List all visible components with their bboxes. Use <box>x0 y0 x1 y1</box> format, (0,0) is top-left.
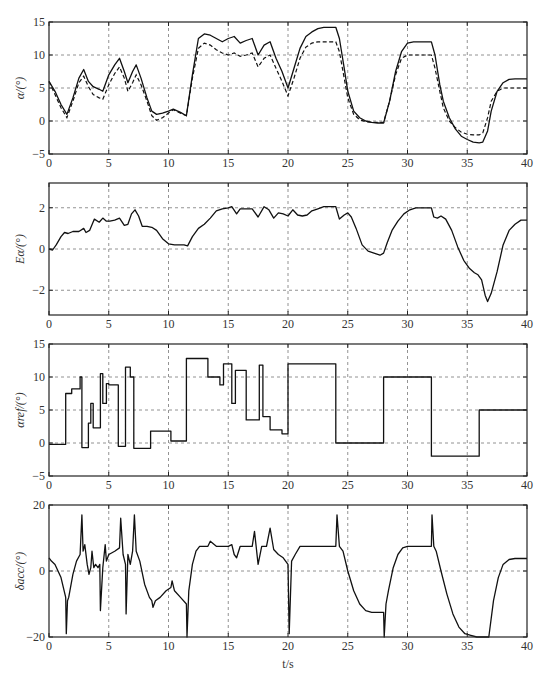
y-tick-label: 0 <box>39 564 45 578</box>
y-tick-label: 15 <box>33 15 45 29</box>
x-tick-label: 5 <box>106 478 112 492</box>
x-tick-label: 35 <box>461 478 473 492</box>
subplot-4: 0510152025303540−20020δacc/(°)t/s <box>13 498 533 671</box>
x-tick-label: 5 <box>106 639 112 653</box>
y-tick-label: 5 <box>39 403 45 417</box>
x-tick-label: 25 <box>342 478 354 492</box>
x-tick-label: 30 <box>402 156 414 170</box>
y-axis-label: δacc/(°) <box>13 552 27 590</box>
y-tick-label: −2 <box>32 283 45 297</box>
x-tick-label: 10 <box>163 639 175 653</box>
x-tick-label: 40 <box>521 156 533 170</box>
y-tick-label: 2 <box>39 201 45 215</box>
x-tick-label: 10 <box>163 317 175 331</box>
y-axis-label: αref/(°) <box>13 392 27 427</box>
x-tick-label: 20 <box>282 156 294 170</box>
y-tick-label: 10 <box>33 370 45 384</box>
x-tick-label: 0 <box>46 156 52 170</box>
y-axis-label: α/(°) <box>13 77 27 99</box>
x-tick-label: 20 <box>282 478 294 492</box>
subplot-1: 0510152025303540−5051015α/(°) <box>13 15 533 170</box>
x-axis-label: t/s <box>282 657 294 671</box>
x-tick-label: 25 <box>342 156 354 170</box>
y-tick-label: −20 <box>26 630 45 644</box>
y-axis-label: Eα/(°) <box>13 234 27 265</box>
y-tick-label: 20 <box>33 498 45 512</box>
x-tick-label: 20 <box>282 317 294 331</box>
y-tick-label: 0 <box>39 436 45 450</box>
x-tick-label: 25 <box>342 317 354 331</box>
x-tick-label: 40 <box>521 639 533 653</box>
grid-lines <box>49 183 527 315</box>
y-tick-label: −5 <box>32 469 45 483</box>
x-tick-label: 0 <box>46 478 52 492</box>
y-tick-label: −5 <box>32 147 45 161</box>
x-tick-label: 30 <box>402 317 414 331</box>
x-tick-label: 40 <box>521 478 533 492</box>
y-tick-label: 15 <box>33 337 45 351</box>
x-tick-label: 0 <box>46 317 52 331</box>
x-tick-label: 5 <box>106 317 112 331</box>
subplot-3: 0510152025303540−5051015αref/(°) <box>13 337 533 492</box>
x-tick-label: 35 <box>461 317 473 331</box>
x-tick-label: 5 <box>106 156 112 170</box>
x-tick-label: 15 <box>222 156 234 170</box>
x-tick-label: 35 <box>461 639 473 653</box>
series-control-deflection <box>49 515 527 637</box>
x-tick-label: 15 <box>222 478 234 492</box>
y-tick-label: 10 <box>33 48 45 62</box>
x-tick-label: 10 <box>163 478 175 492</box>
x-tick-label: 15 <box>222 317 234 331</box>
x-tick-label: 25 <box>342 639 354 653</box>
x-tick-label: 0 <box>46 639 52 653</box>
x-tick-label: 30 <box>402 478 414 492</box>
y-tick-label: 0 <box>39 114 45 128</box>
subplot-2: 0510152025303540−202Eα/(°) <box>13 183 533 331</box>
x-tick-label: 40 <box>521 317 533 331</box>
x-tick-label: 15 <box>222 639 234 653</box>
chart-figure: 0510152025303540−5051015α/(°)05101520253… <box>0 0 549 683</box>
x-tick-label: 30 <box>402 639 414 653</box>
y-tick-label: 0 <box>39 242 45 256</box>
y-tick-label: 5 <box>39 81 45 95</box>
x-tick-label: 20 <box>282 639 294 653</box>
x-tick-label: 10 <box>163 156 175 170</box>
x-tick-label: 35 <box>461 156 473 170</box>
